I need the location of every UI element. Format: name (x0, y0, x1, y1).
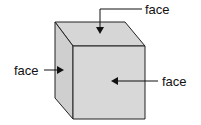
cube-front-face (73, 46, 145, 119)
top-face-label: face (145, 3, 170, 16)
front-face-label: face (162, 75, 187, 88)
left-face-label: face (14, 64, 39, 77)
